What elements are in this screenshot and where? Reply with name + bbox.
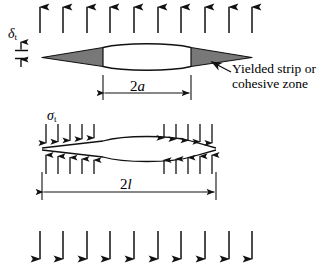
crack-length-variable: a [138,78,146,94]
callout-line-2: cohesive zone [232,76,316,91]
label-crack-length: 2a [130,78,145,95]
label-cohesive-stress: σt [47,108,56,124]
diagram-canvas [0,0,325,269]
callout-leader [211,62,231,73]
cohesive-arrows-lower-right [164,155,212,174]
crack-face-upper [103,44,191,48]
total-length-variable: l [128,176,132,192]
dimension-2a [103,75,191,100]
sigma-subscript: t [54,114,57,124]
top-load-arrows [40,7,252,33]
cohesive-arrows-lower-left [46,155,94,174]
lower-crack-figure [42,137,216,162]
bottom-load-arrows [40,231,252,259]
crack-face-lower [103,67,191,71]
cohesive-face-upper [42,137,216,149]
delta-subscript: t [15,32,18,42]
callout-text: Yielded strip or cohesive zone [232,61,316,91]
crack-opening-indicator [15,42,28,67]
label-total-length: 2l [120,176,132,193]
cohesive-face-lower [42,150,216,162]
figure-container: δt σt 2a 2l Yielded strip or cohesive zo… [0,0,325,269]
label-crack-tip-opening: δt [8,26,17,42]
sigma-symbol: σ [47,108,54,123]
cohesive-arrows-upper-left [46,124,94,143]
yielded-strip-left [42,48,103,67]
callout-line-1: Yielded strip or [232,61,316,76]
